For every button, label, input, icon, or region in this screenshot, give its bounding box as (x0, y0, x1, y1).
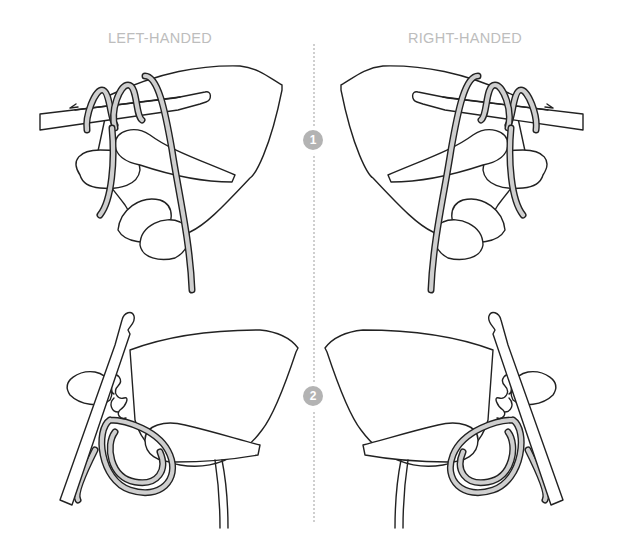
illustration-right-step-2 (325, 313, 563, 528)
illustration-right-step-1 (341, 66, 583, 290)
illustration-left-step-1 (40, 66, 282, 290)
step-badge-1: 1 (303, 130, 323, 150)
illustrations (0, 0, 623, 559)
illustration-left-step-2 (60, 313, 298, 528)
step-badge-2: 2 (303, 386, 323, 406)
